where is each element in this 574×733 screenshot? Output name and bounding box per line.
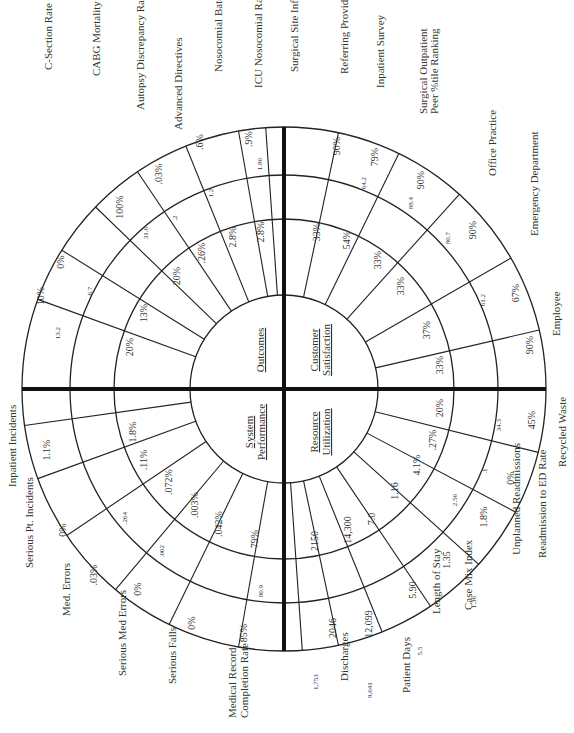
cell-value: 1.2 xyxy=(207,188,215,197)
cell-value: 20% xyxy=(124,338,135,356)
spoke xyxy=(325,154,399,305)
cell-value: 90% xyxy=(467,221,478,239)
cell-value: 1,753 xyxy=(312,674,320,690)
metric-label: Med. Errors xyxy=(60,563,72,616)
cell-value: .27% xyxy=(427,430,438,451)
cell-value: 10% xyxy=(35,287,46,305)
metric-label: CABG Mortality xyxy=(90,1,102,76)
cell-value: .042% xyxy=(213,511,224,537)
metric-label: C-Section Rate xyxy=(42,3,54,70)
spoke xyxy=(169,473,243,624)
cell-value: 9,641 xyxy=(366,682,374,698)
cell-value: .002 xyxy=(158,544,166,557)
cell-value: 20% xyxy=(171,267,182,285)
cell-value: 85% xyxy=(238,624,249,642)
metric-label: Emergency Department xyxy=(528,131,540,236)
metric-label: Recycled Waste xyxy=(556,397,568,467)
metric-label: Readmission to ED Rate xyxy=(536,449,548,558)
metric-labels: C-Section RateCABG MortalityAutopsy Disc… xyxy=(6,0,568,718)
spoke xyxy=(96,207,217,324)
cell-value: 88.4 xyxy=(407,196,415,209)
cell-value: 2046 xyxy=(327,618,338,638)
metric-label: Completion Rate xyxy=(238,643,250,718)
spoke xyxy=(186,146,249,302)
cell-value: 33% xyxy=(311,223,322,241)
cell-value: 2.56 xyxy=(451,493,459,506)
cell-value: 13% xyxy=(138,304,149,322)
spoke xyxy=(319,476,382,632)
cell-value: 37% xyxy=(421,321,432,339)
cell-value: .9% xyxy=(243,131,254,147)
cell-value: 7.0 xyxy=(366,513,377,526)
cell-value: 31.6 xyxy=(142,226,150,239)
metric-label: Referring Provider Survey xyxy=(338,0,350,74)
cell-value: 1.35 xyxy=(441,551,452,569)
cell-value: 64.2 xyxy=(360,176,368,189)
cell-value: 33% xyxy=(372,251,383,269)
cell-value: .003% xyxy=(189,492,200,518)
cell-value: 80.7 xyxy=(444,231,452,244)
cell-value: 61.2 xyxy=(479,293,487,306)
cell-value: 79% xyxy=(249,530,260,548)
metric-label: Office Practice xyxy=(486,110,498,176)
metric-label: Nosocomial Baterenias xyxy=(212,0,224,72)
spoke xyxy=(304,133,339,297)
quadrant-label: Satisfaction xyxy=(320,324,332,376)
spoke xyxy=(239,131,268,296)
quadrant-label: System xyxy=(243,415,255,448)
cell-value: 33% xyxy=(434,356,445,374)
cell-value: .03% xyxy=(88,565,99,586)
metric-label: Inpatient Survey xyxy=(374,14,386,88)
cell-value: 1.16 xyxy=(389,482,400,500)
cell-value: 79% xyxy=(369,148,380,166)
quadrant-labels: OutcomesCustomerSatisfactionSystemPerfor… xyxy=(243,324,332,461)
spoke xyxy=(62,250,204,339)
cell-value: 6.7 xyxy=(86,286,94,295)
cell-value: 45% xyxy=(526,411,537,429)
metric-label: Serious Med Errors xyxy=(116,590,128,676)
radar-wheel-chart: 10%13.20%6.7100%31.6.03%.2.6%1.2.9%1.862… xyxy=(0,0,574,733)
cell-value: 0% xyxy=(186,616,197,629)
cell-value: .11% xyxy=(138,450,149,470)
cell-value: .2 xyxy=(171,215,179,221)
spoke xyxy=(67,442,206,536)
cell-value: 20% xyxy=(434,399,445,417)
cell-value: 12,099 xyxy=(363,610,374,638)
spoke xyxy=(137,172,231,311)
metric-label: Serious Pt. Incidents xyxy=(23,477,35,568)
cell-value: 90% xyxy=(415,171,426,189)
cell-value: 14,300 xyxy=(342,516,353,544)
cell-value: .03% xyxy=(153,164,164,185)
cell-value: 1.8% xyxy=(478,507,489,528)
cell-value: .264 xyxy=(121,511,129,524)
cell-value: 4.1% xyxy=(411,455,422,476)
metric-label: ICU Nosocomial Rate xyxy=(252,0,264,88)
metric-label: Medical Record xyxy=(226,647,238,718)
quadrant-label: Outcomes xyxy=(254,328,266,373)
metric-label: Inpatient Incidents xyxy=(6,405,18,487)
metric-label: Discharges xyxy=(338,632,350,681)
quadrant-label: Customer xyxy=(308,328,320,371)
scorecard-wheel: 10%13.20%6.7100%31.6.03%.2.6%1.2.9%1.862… xyxy=(0,0,574,733)
cell-value: 2.8% xyxy=(227,227,238,248)
metric-label: Serious Falls xyxy=(166,627,178,684)
metric-label: Length of Stay xyxy=(430,548,442,614)
spoke xyxy=(347,194,459,319)
metric-label: Advanced Directives xyxy=(172,37,184,130)
metric-label: Case Mix Index xyxy=(462,539,474,610)
metric-label: Peer %tile Ranking xyxy=(428,28,440,114)
spoke xyxy=(376,330,540,368)
metric-label: Patient Days xyxy=(400,637,412,693)
cell-value: 90% xyxy=(524,336,535,354)
cell-value: 2150 xyxy=(309,531,320,551)
spoke xyxy=(291,483,303,651)
cell-value: 0% xyxy=(132,582,143,595)
cell-value: 80.9 xyxy=(257,584,265,597)
spoke xyxy=(266,128,278,296)
cell-value: 0% xyxy=(55,255,66,268)
metric-label: Unplanned Readmissions xyxy=(510,443,522,555)
cell-value: 2.8% xyxy=(255,222,266,243)
cell-value: 1.86 xyxy=(256,157,264,170)
cell-value: 33% xyxy=(395,277,406,295)
cell-value: .072% xyxy=(163,469,174,495)
